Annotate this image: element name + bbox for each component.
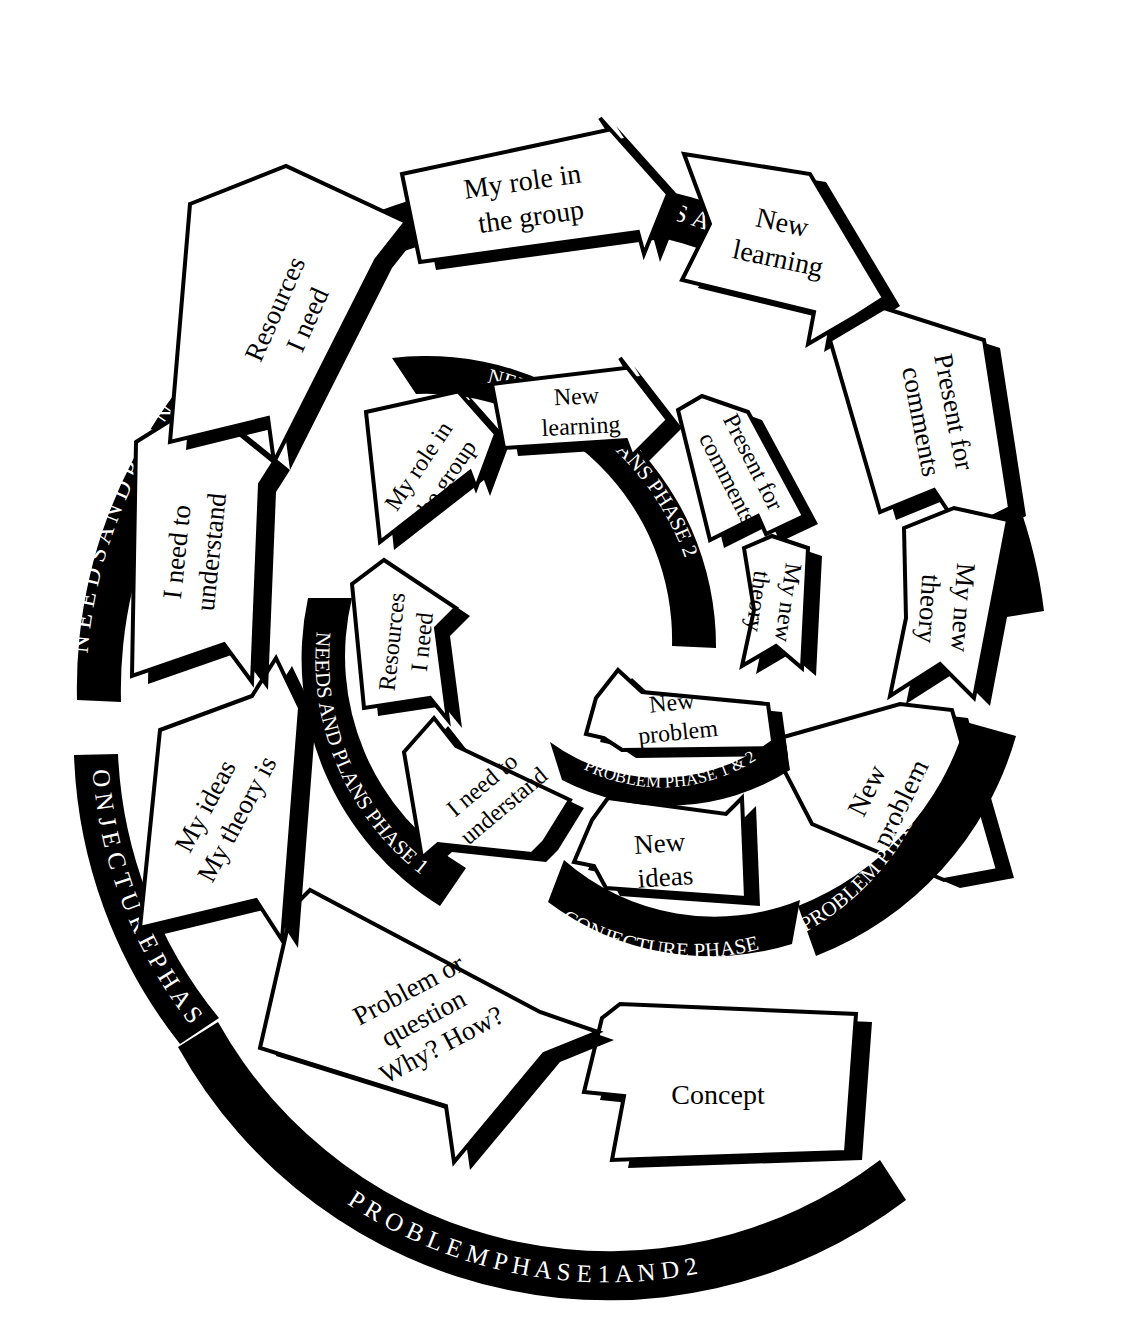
- outer-step-problem-question[interactable]: Problem or question Why? How?: [260, 890, 614, 1170]
- spiral-diagram: N E E D S A N D P L A N S P H A S E 1 N …: [0, 0, 1139, 1340]
- outer-step-my-new-theory[interactable]: My new theory: [890, 508, 1024, 706]
- outer-step-theory-line-1: My new: [945, 562, 981, 654]
- mid-step-new-problem[interactable]: New problem: [586, 670, 788, 758]
- mid-step-new-ideas-line-2: ideas: [637, 860, 694, 894]
- mid-step-present-comments[interactable]: Present for comments: [678, 396, 818, 548]
- mid-step-i-need-understand[interactable]: I need to understand: [404, 718, 584, 866]
- mid-step-new-learning-line-1: New: [553, 381, 600, 409]
- mid-step-new-problem-line-1: New: [648, 687, 696, 718]
- outer-step-my-ideas[interactable]: My ideas My theory is: [140, 658, 316, 948]
- outer-step-concept-label: Concept: [671, 1079, 765, 1110]
- outer-step-my-role[interactable]: My role in the group: [402, 118, 684, 270]
- mid-step-my-role[interactable]: My role in the group: [366, 380, 510, 550]
- outer-step-concept[interactable]: Concept: [584, 1004, 872, 1168]
- outer-step-present-comments[interactable]: Present for comments: [830, 308, 1026, 540]
- mid-step-new-learning-line-2: learning: [541, 410, 621, 440]
- mid-step-resources[interactable]: Resources I need: [352, 560, 470, 728]
- outer-step-theory-line-2: theory: [911, 573, 946, 644]
- middle-spiral-ring: NEEDS AND PLANS PHASE 1 NEEDS AND PLANS …: [302, 356, 822, 906]
- spiral-diagram-canvas: N E E D S A N D P L A N S P H A S E 1 N …: [0, 0, 1139, 1340]
- outer-spiral-ring: N E E D S A N D P L A N S P H A S E 1 N …: [0, 0, 1044, 1300]
- outer-step-i-need-understand[interactable]: I need to understand: [132, 402, 290, 690]
- mid-step-new-ideas-line-1: New: [633, 827, 686, 861]
- mid-step-my-new-theory[interactable]: My new theory: [740, 536, 822, 676]
